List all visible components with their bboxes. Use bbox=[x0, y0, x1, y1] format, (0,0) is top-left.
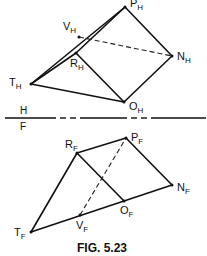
ref-label-f: F bbox=[20, 121, 26, 132]
label-rf: RF bbox=[65, 138, 78, 153]
label-oh: OH bbox=[129, 100, 144, 115]
edge-th-ph bbox=[31, 7, 125, 84]
figure-caption: FIG. 5.23 bbox=[77, 241, 127, 255]
edge-tf-nf bbox=[31, 185, 172, 232]
edge-tf-rf bbox=[31, 153, 77, 232]
label-tf: TF bbox=[14, 226, 26, 241]
point-tf bbox=[30, 231, 33, 234]
label-of: OF bbox=[120, 204, 134, 219]
point-ph bbox=[124, 6, 127, 9]
label-vf: VF bbox=[76, 219, 88, 234]
point-pf bbox=[125, 137, 128, 140]
point-nh bbox=[171, 55, 174, 58]
hidden-edge-vh-nh bbox=[79, 37, 172, 56]
orthographic-projection-diagram: PH VH RH NH TH OH H F RF PF NF OF V bbox=[0, 0, 207, 256]
label-th: TH bbox=[9, 76, 22, 91]
label-nf: NF bbox=[177, 181, 190, 196]
point-oh bbox=[123, 101, 126, 104]
label-pf: PF bbox=[131, 131, 143, 146]
edge-rf-of bbox=[77, 153, 124, 201]
edge-ph-nh bbox=[125, 7, 172, 56]
point-th bbox=[30, 83, 33, 86]
edge-pf-nf bbox=[126, 138, 172, 185]
front-view: RF PF NF OF VF TF bbox=[14, 131, 190, 241]
top-view: PH VH RH NH TH OH bbox=[9, 0, 191, 115]
edge-rh-ph bbox=[76, 7, 125, 53]
point-vh bbox=[78, 36, 81, 39]
label-nh: NH bbox=[177, 50, 191, 65]
ref-label-h: H bbox=[20, 105, 27, 116]
edge-nh-oh bbox=[124, 56, 172, 102]
point-of bbox=[123, 200, 126, 203]
label-ph: PH bbox=[130, 0, 143, 12]
reference-line-h-f: H F bbox=[5, 105, 206, 132]
label-vh: VH bbox=[63, 20, 76, 35]
point-nf bbox=[171, 184, 174, 187]
point-rh bbox=[75, 52, 78, 55]
point-vf bbox=[79, 214, 82, 217]
